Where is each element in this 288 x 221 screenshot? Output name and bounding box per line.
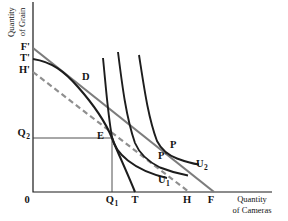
y-mark-h-prime: H' bbox=[12, 65, 30, 76]
x-mark-t: T bbox=[129, 195, 141, 206]
y-axis-title-line1: Quantity bbox=[6, 0, 17, 45]
curve-label-u1-sub: 1 bbox=[166, 179, 170, 188]
economics-trade-diagram: Quantity of Grain Quantity of Cameras F'… bbox=[0, 0, 288, 221]
x-axis-title: Quantity of Cameras bbox=[221, 194, 283, 215]
point-label-d: D bbox=[82, 72, 90, 83]
y-mark-f-prime: F' bbox=[12, 42, 30, 53]
origin-label: 0 bbox=[21, 195, 33, 206]
x-mark-q1-base: Q bbox=[106, 194, 114, 205]
curve-label-u1: U1 bbox=[158, 175, 170, 186]
y-mark-t-prime: T' bbox=[12, 53, 30, 64]
indifference-curve-middle bbox=[118, 52, 188, 176]
curve-label-u2-base: U bbox=[196, 158, 204, 169]
x-axis-title-line1: Quantity bbox=[221, 194, 283, 205]
y-axis-title: Quantity of Grain bbox=[6, 0, 32, 45]
indifference-curve-u2 bbox=[139, 55, 199, 165]
y-mark-q2-base: Q bbox=[18, 127, 26, 138]
y-axis-title-line2: of Grain bbox=[17, 0, 28, 45]
equilibrium-reference-lines bbox=[33, 138, 112, 192]
diagram-canvas bbox=[0, 0, 288, 221]
point-label-e: E bbox=[97, 131, 104, 142]
curve-label-u2: U2 bbox=[196, 159, 208, 170]
x-axis-title-line2: of Cameras bbox=[221, 205, 283, 216]
curve-label-u1-base: U bbox=[158, 174, 166, 185]
y-mark-q2: Q2 bbox=[8, 128, 30, 139]
point-label-p: P bbox=[170, 140, 176, 151]
curve-label-u2-sub: 2 bbox=[204, 163, 208, 172]
x-mark-f: F bbox=[205, 195, 217, 206]
x-mark-h: H bbox=[181, 195, 193, 206]
x-mark-q1-sub: 1 bbox=[114, 199, 118, 208]
y-mark-q2-sub: 2 bbox=[26, 132, 30, 141]
point-label-p-prime: P' bbox=[158, 151, 167, 162]
x-mark-q1: Q1 bbox=[102, 195, 122, 206]
